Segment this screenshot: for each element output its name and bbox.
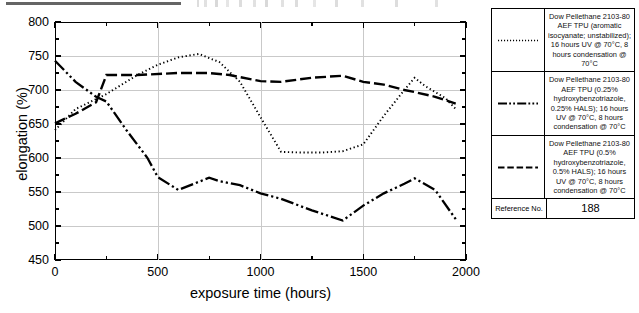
reference-label: Reference No. [492, 199, 547, 218]
legend-table: Dow Pellethane 2103-80 AEF TPU (aromatic… [491, 8, 635, 219]
plot-area: 4505005506006507007508000500100015002000 [55, 22, 466, 260]
legend-entry-text: Dow Pellethane 2103-80 AEF TPU (aromatic… [545, 9, 634, 71]
chart-panel: 4505005506006507007508000500100015002000… [0, 8, 488, 313]
y-tick-label: 500 [15, 220, 49, 233]
legend-entry-text: Dow Pellethane 2103-80 AEF TPU (0.25% hy… [545, 72, 634, 134]
legend-swatch-cell [492, 72, 545, 134]
reference-row: Reference No. 188 [492, 199, 634, 218]
page-edge-artifact [6, 2, 181, 5]
legend-row: Dow Pellethane 2103-80 AEF TPU (0.5% hyd… [492, 136, 634, 199]
dash-dot-dot-line-swatch [498, 100, 538, 107]
legend-row: Dow Pellethane 2103-80 AEF TPU (0.25% hy… [492, 72, 634, 135]
x-tick-label: 500 [128, 266, 188, 279]
y-tick-label: 800 [15, 16, 49, 29]
legend-swatch-cell [492, 136, 545, 198]
data-series-layer [55, 22, 466, 260]
x-tick-label: 1000 [231, 266, 291, 279]
series-line-1 [55, 54, 456, 153]
x-axis-title: exposure time (hours) [55, 285, 466, 301]
x-tick-label: 1500 [333, 266, 393, 279]
x-tick-label: 2000 [436, 266, 496, 279]
legend-entry-text: Dow Pellethane 2103-80 AEF TPU (0.5% hyd… [545, 136, 634, 198]
legend-swatch-cell [492, 9, 545, 71]
page-edge-text-artifact [195, 0, 495, 7]
dotted-line-swatch [498, 37, 538, 44]
dashed-line-swatch [498, 164, 538, 171]
reference-value: 188 [547, 199, 634, 218]
legend-row: Dow Pellethane 2103-80 AEF TPU (aromatic… [492, 9, 634, 72]
x-tick-label: 0 [25, 266, 85, 279]
y-axis-title: elongation (%) [14, 54, 30, 214]
series-line-2 [55, 61, 456, 221]
figure-root: 4505005506006507007508000500100015002000… [0, 0, 639, 313]
y-tick-label: 450 [15, 254, 49, 267]
